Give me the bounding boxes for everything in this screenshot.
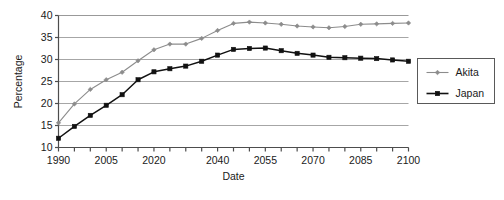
data-point-akita — [406, 21, 410, 25]
data-point-japan — [263, 46, 267, 50]
data-point-akita — [199, 36, 203, 40]
y-axis-tick-label: 15 — [41, 119, 53, 131]
y-axis-tick-label: 30 — [41, 53, 53, 65]
legend-label-japan: Japan — [456, 87, 485, 99]
y-axis-tick-label: 35 — [41, 31, 53, 43]
data-point-japan — [311, 53, 315, 57]
data-point-akita — [327, 26, 331, 30]
data-point-japan — [72, 124, 76, 128]
data-point-akita — [311, 25, 315, 29]
data-point-japan — [247, 46, 251, 50]
data-point-japan — [136, 78, 140, 82]
data-point-japan — [279, 49, 283, 53]
data-point-japan — [343, 56, 347, 60]
data-point-japan — [200, 59, 204, 63]
data-point-akita — [374, 22, 378, 26]
data-point-akita — [295, 24, 299, 28]
y-axis-tick-label: 25 — [41, 75, 53, 87]
data-point-japan — [231, 47, 235, 51]
y-axis-tick-label: 20 — [41, 97, 53, 109]
x-axis-tick-label: 2005 — [95, 154, 119, 166]
data-point-japan — [184, 64, 188, 68]
line-chart: 1015202530354019902005202020402055207020… — [0, 0, 504, 200]
data-point-japan — [152, 70, 156, 74]
x-axis-tick-label: 2100 — [397, 154, 421, 166]
data-point-japan — [359, 56, 363, 60]
x-axis-tick-label: 2055 — [254, 154, 278, 166]
chart-canvas: 1015202530354019902005202020402055207020… — [0, 0, 504, 200]
data-point-japan — [327, 55, 331, 59]
data-point-akita — [359, 22, 363, 26]
data-point-akita — [247, 20, 251, 24]
data-point-japan — [120, 93, 124, 97]
x-axis-tick-label: 2040 — [206, 154, 230, 166]
data-point-japan — [215, 53, 219, 57]
data-point-japan — [406, 59, 410, 63]
legend-label-akita: Akita — [456, 66, 480, 78]
data-point-akita — [168, 42, 172, 46]
data-point-japan — [88, 113, 92, 117]
legend-swatch-marker-japan — [435, 91, 439, 95]
data-point-japan — [390, 58, 394, 62]
data-point-akita — [184, 42, 188, 46]
data-point-japan — [295, 51, 299, 55]
data-point-japan — [56, 136, 60, 140]
x-axis-tick-label: 2020 — [142, 154, 166, 166]
x-axis-tick-label: 2085 — [349, 154, 373, 166]
data-point-japan — [375, 57, 379, 61]
y-axis-tick-label: 40 — [41, 9, 53, 21]
y-axis-tick-label: 10 — [41, 141, 53, 153]
data-point-akita — [390, 21, 394, 25]
data-point-japan — [104, 103, 108, 107]
data-point-akita — [343, 24, 347, 28]
x-axis-tick-label: 2070 — [301, 154, 325, 166]
series-line-japan — [59, 48, 409, 138]
data-point-akita — [231, 21, 235, 25]
x-axis-title: Date — [222, 170, 244, 182]
x-axis-tick-label: 1990 — [47, 154, 71, 166]
data-point-akita — [279, 22, 283, 26]
y-axis-title: Percentage — [12, 54, 24, 108]
data-point-akita — [215, 28, 219, 32]
data-point-japan — [168, 67, 172, 71]
data-point-akita — [263, 21, 267, 25]
